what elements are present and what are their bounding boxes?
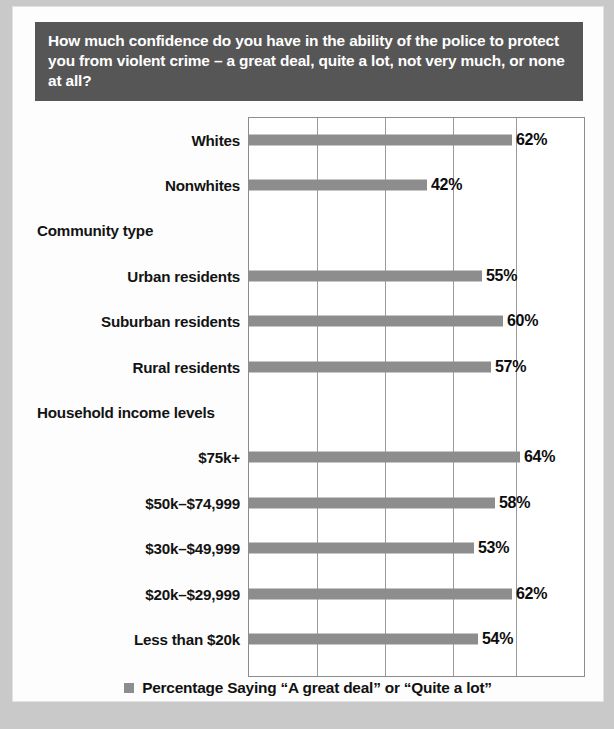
question-banner: How much confidence do you have in the a… (35, 22, 583, 101)
category-label: Nonwhites (19, 177, 249, 194)
category-label: $50k–$74,999 (19, 494, 249, 511)
category-label: $20k–$29,999 (19, 585, 249, 602)
category-label: $30k–$49,999 (19, 540, 249, 557)
gridline (317, 118, 318, 676)
category-label: Urban residents (19, 267, 249, 284)
gridline (453, 118, 454, 676)
legend-label: Percentage Saying “A great deal” or “Qui… (142, 679, 492, 697)
plot-area (248, 117, 585, 677)
gridline (516, 118, 517, 676)
category-label: Whites (19, 131, 249, 148)
category-label: $75k+ (19, 449, 249, 466)
bar-chart: WhitesNonwhitesCommunity typeUrban resid… (13, 117, 603, 677)
figure-card: How much confidence do you have in the a… (13, 7, 603, 701)
category-label: Less than $20k (19, 630, 249, 647)
gridline (385, 118, 386, 676)
category-label: Rural residents (19, 358, 249, 375)
figure-page: How much confidence do you have in the a… (0, 0, 614, 729)
chart-legend: Percentage Saying “A great deal” or “Qui… (13, 679, 603, 697)
category-label: Suburban residents (19, 313, 249, 330)
legend-swatch-icon (124, 683, 134, 693)
question-text: How much confidence do you have in the a… (48, 32, 565, 89)
